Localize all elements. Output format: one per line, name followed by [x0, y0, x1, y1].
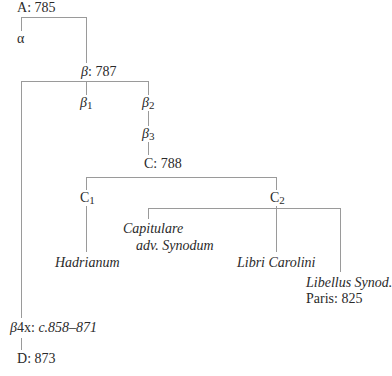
- node-label: C: [144, 156, 153, 171]
- node-alpha: α: [17, 31, 24, 47]
- node-label: D: [17, 351, 27, 366]
- node-label: A: [17, 0, 27, 15]
- node-label: β: [81, 64, 88, 79]
- node-C1: C1: [80, 190, 95, 206]
- node-subscript: 1: [89, 194, 95, 206]
- node-label-line1: Capitulare: [123, 220, 214, 237]
- node-label: α: [17, 31, 24, 46]
- node-label-line2: adv. Synodum: [123, 237, 214, 254]
- edge-beta-beta2: [148, 81, 149, 95]
- node-label: β: [80, 95, 87, 110]
- edge-beta-beta1: [86, 81, 87, 95]
- node-label: Hadrianum: [55, 255, 120, 270]
- edge-C-C2: [276, 177, 277, 190]
- node-date: c.858–871: [38, 320, 97, 335]
- node-label: C: [270, 190, 279, 205]
- node-subscript: 2: [279, 194, 285, 206]
- separator: :: [88, 64, 92, 79]
- node-C2: C2: [270, 190, 285, 206]
- node-subscript: 4: [17, 320, 24, 335]
- edge-C-horizontal: [86, 177, 277, 178]
- separator: :: [27, 0, 31, 15]
- node-label: β: [10, 320, 17, 335]
- node-subscript: 1: [87, 99, 93, 111]
- node-label-line1: Libellus Synod.: [306, 275, 392, 291]
- node-label: β: [142, 126, 149, 141]
- edge-C2-libri-carolini: [276, 206, 277, 252]
- node-libellus: Libellus Synod. Paris: 825: [306, 275, 392, 307]
- node-A: A: 785: [17, 0, 56, 16]
- separator: :: [27, 351, 31, 366]
- edge-A-beta: [86, 17, 87, 63]
- edge-C2-horizontal: [148, 208, 341, 209]
- node-label: Libri Carolini: [237, 255, 315, 270]
- node-beta2: β2: [142, 95, 154, 111]
- edge-beta3-C: [148, 142, 149, 155]
- node-libri-carolini: Libri Carolini: [237, 255, 315, 271]
- node-capitulare: Capitulare adv. Synodum: [123, 220, 214, 254]
- node-label: C: [80, 190, 89, 205]
- edge-C2-capitulare: [148, 208, 149, 219]
- node-date: 873: [35, 351, 56, 366]
- node-subscript: 3: [149, 130, 155, 142]
- edge-beta2-beta3: [148, 111, 149, 126]
- edge-A-horizontal: [21, 17, 87, 18]
- node-hadrianum: Hadrianum: [55, 255, 120, 271]
- separator: :: [31, 320, 35, 335]
- node-beta3: β3: [142, 126, 154, 142]
- edge-C-C1: [86, 177, 87, 190]
- node-suffix: x: [24, 320, 31, 335]
- node-date: 787: [95, 64, 116, 79]
- edge-beta4x-D: [21, 338, 22, 350]
- node-subscript: 2: [149, 99, 155, 111]
- node-D: D: 873: [17, 351, 56, 367]
- separator: :: [153, 156, 157, 171]
- node-date: 785: [35, 0, 56, 15]
- edge-A-alpha: [21, 17, 22, 31]
- node-beta1: β1: [80, 95, 92, 111]
- node-beta: β: 787: [81, 64, 116, 80]
- edge-C1-hadrianum: [86, 206, 87, 252]
- edge-beta-beta4x: [21, 81, 22, 318]
- node-beta4x: β4x: c.858–871: [10, 320, 97, 336]
- node-label-line2: Paris: 825: [306, 291, 392, 307]
- edge-C2-libellus: [340, 208, 341, 272]
- node-C: C: 788: [144, 156, 182, 172]
- edge-beta-horizontal: [21, 81, 149, 82]
- node-label: β: [142, 95, 149, 110]
- node-date: 788: [161, 156, 182, 171]
